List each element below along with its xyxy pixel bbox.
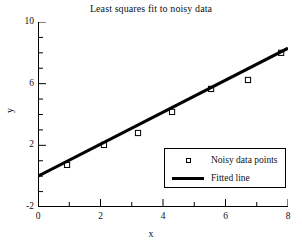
x-tick-label: 2 — [89, 212, 113, 222]
data-point-marker — [135, 130, 140, 135]
x-tick-label: 6 — [214, 212, 238, 222]
chart-legend: Noisy data points Fitted line — [164, 148, 286, 188]
data-point-marker — [245, 77, 250, 82]
chart-figure: Least squares fit to noisy data y x -226… — [0, 0, 302, 248]
thick-line-icon — [165, 177, 211, 180]
square-open-marker-icon — [165, 158, 211, 163]
x-tick-label: 8 — [276, 212, 300, 222]
legend-label: Noisy data points — [211, 155, 278, 165]
legend-item-noisy-data-points: Noisy data points — [165, 151, 287, 169]
legend-item-fitted-line: Fitted line — [165, 169, 287, 187]
x-tick-label: 4 — [151, 212, 175, 222]
legend-label: Fitted line — [211, 173, 250, 183]
x-tick-label: 0 — [26, 212, 50, 222]
